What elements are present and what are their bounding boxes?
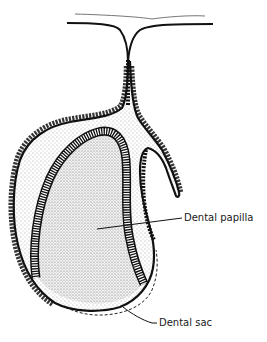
dental-papilla-label: Dental papilla	[184, 212, 253, 223]
oral-epithelium-right	[128, 24, 213, 62]
tooth-germ-diagram: Dental papilla Dental sac	[0, 0, 267, 342]
dental-sac-label: Dental sac	[159, 317, 212, 328]
oral-epithelium-left	[67, 23, 128, 62]
dental-sac-leader	[123, 307, 157, 323]
oral-surface-line	[75, 14, 205, 19]
